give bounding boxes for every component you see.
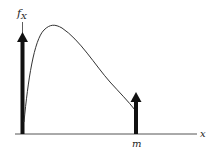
density-curve: [24, 25, 135, 122]
impulse-at-zero: [17, 32, 28, 134]
arrowhead-icon: [17, 32, 28, 42]
impulse-at-m: [131, 92, 142, 134]
y-axis-label: fX: [16, 7, 27, 21]
density-diagram: fX x m: [0, 0, 218, 154]
x-axis-label: x: [200, 128, 206, 139]
x-tick-label-m: m: [132, 138, 141, 149]
arrowhead-icon: [131, 92, 142, 102]
